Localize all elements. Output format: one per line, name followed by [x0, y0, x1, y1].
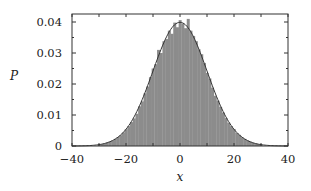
histogram-bar: [179, 20, 182, 146]
histogram-bar: [168, 31, 171, 146]
histogram-bar: [195, 41, 198, 146]
histogram-bar: [230, 126, 233, 146]
histogram-bar: [219, 107, 222, 146]
histogram-bar: [130, 122, 133, 146]
x-tick-label: −20: [114, 152, 138, 166]
y-tick-label: 0.02: [36, 77, 62, 91]
y-tick-label: 0: [55, 139, 62, 153]
y-tick-label: 0.01: [36, 108, 62, 122]
histogram-bar: [192, 36, 195, 146]
histogram-bar: [189, 31, 192, 146]
x-tick-label: 0: [176, 152, 183, 166]
histogram-bar: [184, 28, 187, 146]
x-axis-label: x: [177, 170, 184, 184]
histogram-chart: −40−2002040 00.010.020.030.04 P x: [0, 0, 311, 191]
histogram-bar: [127, 126, 130, 146]
histogram-bar: [227, 123, 230, 146]
histogram-bar: [216, 101, 219, 146]
histogram-bar: [154, 64, 157, 146]
histogram-bar: [173, 23, 176, 146]
histogram-bar: [157, 50, 160, 146]
histogram-bar: [235, 133, 238, 146]
histogram-bar: [225, 118, 228, 146]
histogram-bar: [119, 135, 122, 146]
y-tick-label: 0.04: [36, 15, 62, 29]
histogram-bar: [160, 53, 163, 146]
histogram-bar: [187, 19, 190, 146]
histogram-bar: [176, 27, 179, 146]
histogram-bar: [198, 49, 201, 146]
histogram-bar: [222, 113, 225, 146]
x-tick-label: −40: [60, 152, 84, 166]
x-tick-label: 40: [281, 152, 296, 166]
histogram-bar: [171, 34, 174, 146]
histogram-bar: [208, 78, 211, 146]
histogram-bar: [165, 39, 168, 146]
histogram-bar: [144, 93, 147, 146]
histogram-bar: [138, 106, 141, 146]
y-tick-label: 0.03: [36, 46, 62, 60]
histogram-bar: [135, 114, 138, 146]
histogram-bars: [98, 19, 263, 146]
histogram-bar: [203, 63, 206, 146]
y-axis-label: P: [9, 69, 19, 83]
histogram-bar: [152, 69, 155, 147]
histogram-bar: [141, 101, 144, 146]
histogram-bar: [162, 41, 165, 146]
x-tick-label: 20: [227, 152, 242, 166]
histogram-bar: [211, 88, 214, 146]
histogram-bar: [206, 73, 209, 146]
histogram-bar: [181, 24, 184, 146]
histogram-bar: [149, 77, 152, 146]
histogram-bar: [200, 54, 203, 146]
histogram-bar: [122, 132, 125, 146]
histogram-bar: [214, 96, 217, 146]
histogram-bar: [146, 86, 149, 146]
histogram-bar: [133, 118, 136, 146]
